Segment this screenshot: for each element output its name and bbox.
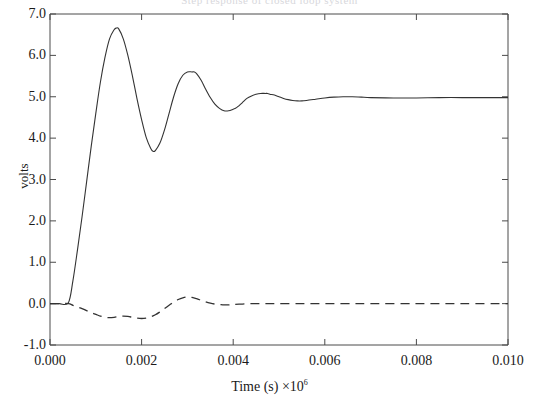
axis-ticks bbox=[50, 14, 508, 345]
series-line-solid bbox=[50, 28, 508, 305]
chart-figure: Step response of closed loop system volt… bbox=[0, 0, 539, 414]
series-line-dashed bbox=[50, 297, 508, 319]
plot-canvas bbox=[0, 0, 539, 414]
axis-spines bbox=[50, 14, 508, 345]
